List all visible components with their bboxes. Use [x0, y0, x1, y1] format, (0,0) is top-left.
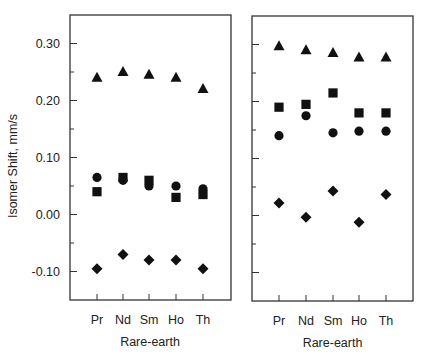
triangle-marker: [381, 52, 392, 62]
x-axis-label: Rare-earth: [303, 336, 363, 350]
y-tick-label: 0.30: [36, 37, 60, 51]
triangle-marker: [92, 72, 103, 82]
y-axis-label: Isomer Shift, mm/s: [6, 114, 20, 218]
diamond-marker: [354, 217, 365, 228]
circle-marker: [381, 127, 390, 136]
left-panel: -0.100.000.100.200.30PrNdSmHoThRare-eart…: [32, 15, 232, 349]
y-tick-label: 0.10: [36, 151, 60, 165]
x-tick-label: Pr: [273, 314, 286, 328]
figure: -0.100.000.100.200.30PrNdSmHoThRare-eart…: [0, 0, 425, 356]
diamond-marker: [274, 197, 285, 208]
x-tick-label: Nd: [115, 313, 131, 327]
circle-marker: [118, 176, 127, 185]
x-tick-label: Ho: [168, 313, 184, 327]
x-tick-label: Sm: [140, 313, 159, 327]
triangle-marker: [144, 69, 155, 79]
diamond-marker: [144, 255, 155, 266]
circle-marker: [171, 181, 180, 190]
x-tick-label: Th: [379, 314, 394, 328]
triangle-marker: [301, 44, 312, 54]
x-tick-label: Ho: [351, 314, 367, 328]
diamond-marker: [301, 212, 312, 223]
x-tick-label: Pr: [91, 313, 104, 327]
square-marker: [92, 187, 101, 196]
x-tick-label: Th: [196, 313, 211, 327]
triangle-marker: [198, 83, 209, 93]
diamond-marker: [328, 185, 339, 196]
square-marker: [354, 108, 363, 117]
diamond-marker: [92, 263, 103, 274]
diamond-marker: [198, 263, 209, 274]
square-marker: [381, 108, 390, 117]
y-tick-label: -0.10: [32, 265, 61, 279]
circle-marker: [301, 111, 310, 120]
circle-marker: [274, 131, 283, 140]
square-marker: [274, 103, 283, 112]
triangle-marker: [274, 40, 285, 50]
triangle-marker: [171, 72, 182, 82]
right-panel: PrNdSmHoThRare-earth: [252, 16, 413, 350]
x-tick-label: Sm: [324, 314, 343, 328]
square-marker: [301, 100, 310, 109]
triangle-marker: [354, 52, 365, 62]
square-marker: [328, 88, 337, 97]
circle-marker: [198, 184, 207, 193]
square-marker: [171, 193, 180, 202]
circle-marker: [328, 128, 337, 137]
y-tick-label: 0.00: [36, 208, 60, 222]
triangle-marker: [328, 47, 339, 57]
triangle-marker: [118, 66, 129, 76]
diamond-marker: [118, 249, 129, 260]
y-tick-label: 0.20: [36, 94, 60, 108]
circle-marker: [144, 181, 153, 190]
circle-marker: [92, 173, 101, 182]
diamond-marker: [381, 189, 392, 200]
x-axis-label: Rare-earth: [120, 335, 180, 349]
x-tick-label: Nd: [298, 314, 314, 328]
circle-marker: [354, 127, 363, 136]
diamond-marker: [171, 255, 182, 266]
